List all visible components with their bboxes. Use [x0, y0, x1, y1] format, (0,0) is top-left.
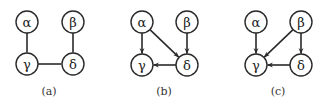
panel-c-directed-graph: αβγδ(c)	[245, 11, 312, 98]
node-label: δ	[183, 58, 191, 73]
node-delta: δ	[62, 53, 84, 75]
edge-alpha-to-delta	[150, 30, 179, 57]
node-delta: δ	[290, 54, 312, 76]
node-label: α	[252, 15, 261, 30]
node-label: β	[183, 15, 191, 30]
graphical-models-figure: αβγδ(a) αβγδ(b) αβγδ(c)	[0, 0, 329, 105]
node-label: α	[23, 15, 32, 30]
panel-caption: (a)	[41, 85, 56, 98]
node-delta: δ	[176, 54, 198, 76]
node-gamma: γ	[16, 53, 38, 75]
node-beta: β	[290, 11, 312, 33]
node-label: β	[297, 15, 305, 30]
node-gamma: γ	[245, 54, 267, 76]
node-label: δ	[297, 58, 305, 73]
node-alpha: α	[131, 11, 153, 33]
node-alpha: α	[245, 11, 267, 33]
node-alpha: α	[16, 11, 38, 33]
node-beta: β	[62, 11, 84, 33]
panel-b-directed-graph: αβγδ(b)	[131, 11, 198, 98]
node-label: γ	[252, 58, 260, 73]
node-gamma: γ	[131, 54, 153, 76]
node-label: β	[69, 15, 77, 30]
panel-caption: (c)	[271, 85, 286, 98]
node-label: γ	[138, 58, 146, 73]
panel-caption: (b)	[156, 85, 172, 98]
node-label: α	[138, 15, 147, 30]
node-label: δ	[69, 57, 77, 72]
node-label: γ	[23, 57, 31, 72]
node-beta: β	[176, 11, 198, 33]
panel-a-undirected-graph: αβγδ(a)	[16, 11, 84, 98]
edge-beta-to-gamma	[264, 30, 293, 57]
